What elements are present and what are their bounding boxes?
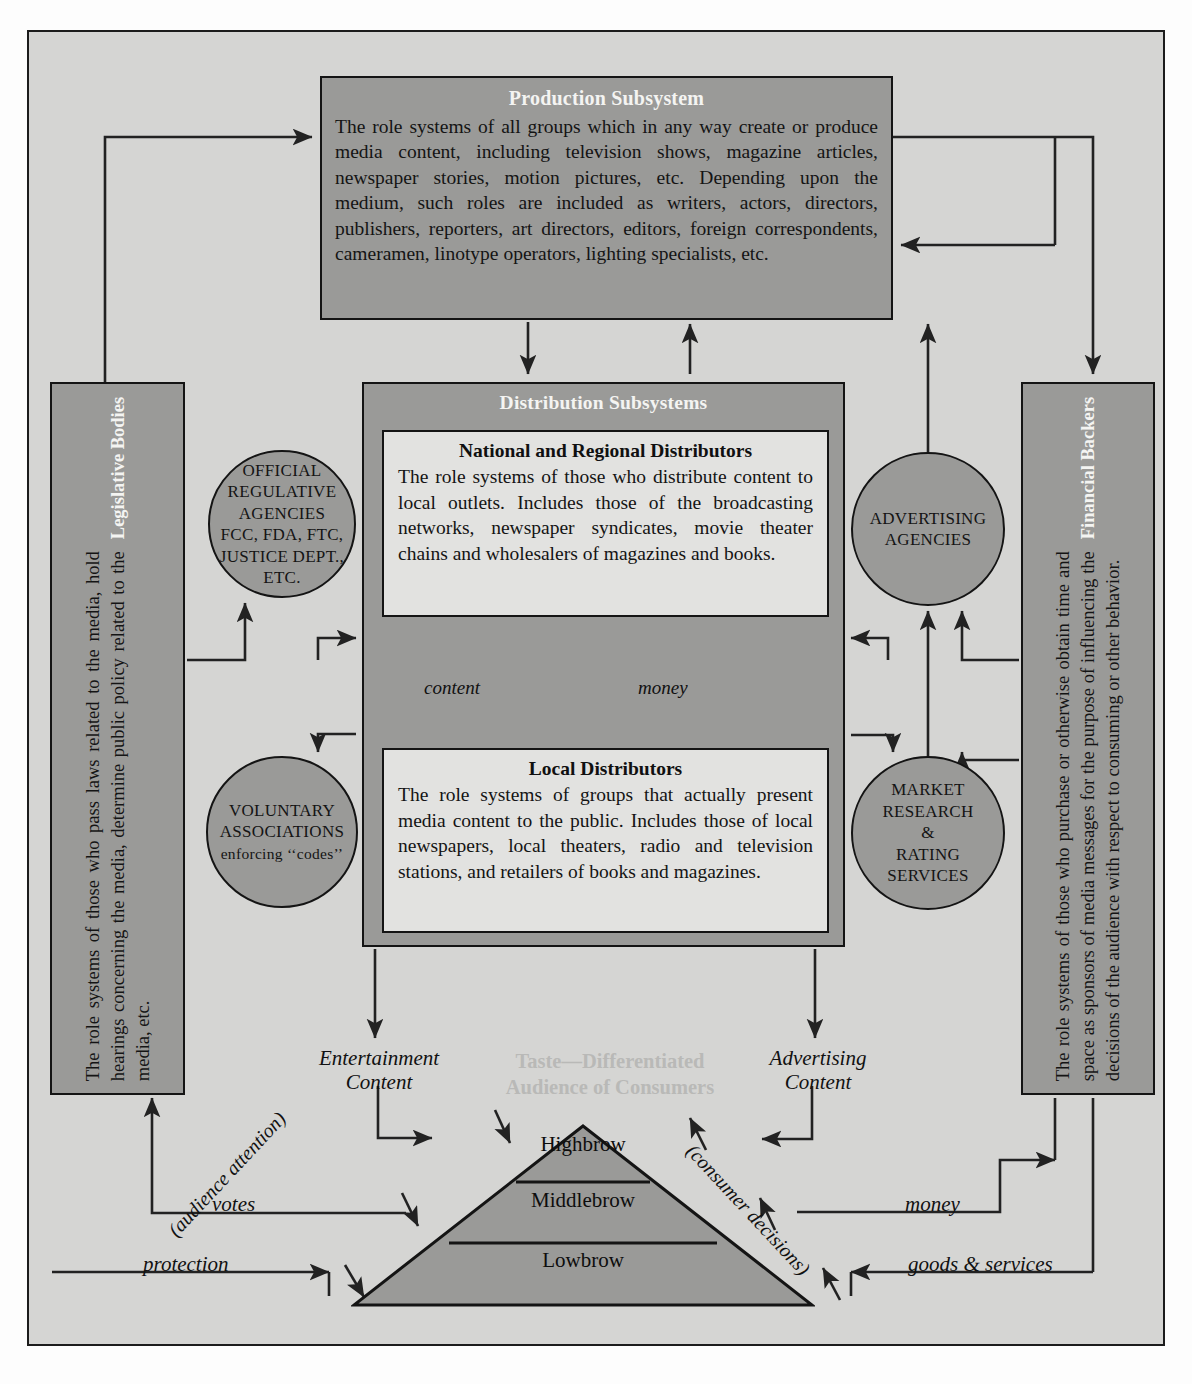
financial-backers-title: Financial Backers xyxy=(1078,396,1099,538)
production-subsystem-title: Production Subsystem xyxy=(335,87,878,110)
diagram-canvas: Production Subsystem The role systems of… xyxy=(0,0,1192,1384)
flow-label-money: money xyxy=(638,676,688,700)
votes-label: votes xyxy=(212,1192,255,1216)
official-line-6: ETC. xyxy=(220,567,344,589)
advertising-content-line-2: Content xyxy=(738,1070,898,1094)
official-line-4: FCC, FDA, FTC, xyxy=(220,524,344,546)
official-line-1: OFFICIAL xyxy=(220,460,344,482)
flow-label-content: content xyxy=(424,676,480,700)
voluntary-line-3: enforcing ‘‘codes’’ xyxy=(220,843,345,865)
market-line-4: RATING xyxy=(882,844,973,866)
entertainment-content-label: Entertainment Content xyxy=(296,1046,462,1094)
pyramid-tier-highbrow: Highbrow xyxy=(351,1132,815,1157)
production-subsystem-body: The role systems of all groups which in … xyxy=(335,114,878,266)
legislative-bodies-title: Legislative Bodies xyxy=(107,396,128,538)
distribution-subsystems-title: Distribution Subsystems xyxy=(378,392,829,414)
audience-heading: Taste—Differentiated Audience of Consume… xyxy=(495,1048,725,1100)
market-line-3: & xyxy=(882,822,973,844)
pyramid-tier-lowbrow: Lowbrow xyxy=(351,1248,815,1273)
voluntary-line-1: VOLUNTARY xyxy=(220,800,345,822)
audience-heading-line-2: Audience of Consumers xyxy=(495,1074,725,1100)
local-distributors-title: Local Distributors xyxy=(398,758,813,780)
market-line-5: SERVICES xyxy=(882,865,973,887)
legislative-bodies-body: The role systems of those who pass laws … xyxy=(80,551,155,1081)
local-distributors-body: The role systems of groups that actually… xyxy=(398,782,813,884)
local-distributors-card: Local Distributors The role systems of g… xyxy=(382,748,829,933)
financial-backers-body: The role systems of those who purchase o… xyxy=(1051,551,1126,1081)
national-regional-distributors-body: The role systems of those who distribute… xyxy=(398,464,813,566)
production-subsystem-box: Production Subsystem The role systems of… xyxy=(320,76,893,320)
advertising-content-line-1: Advertising xyxy=(738,1046,898,1070)
legislative-bodies-panel: Legislative Bodies The role systems of t… xyxy=(50,382,185,1095)
official-line-3: AGENCIES xyxy=(220,503,344,525)
market-line-1: MARKET xyxy=(882,779,973,801)
money-label: money xyxy=(905,1192,960,1216)
goods-and-services-label: goods & services xyxy=(908,1252,1053,1276)
distribution-subsystems-box: Distribution Subsystems National and Reg… xyxy=(362,382,845,947)
market-research-rating-services-circle: MARKET RESEARCH & RATING SERVICES xyxy=(851,756,1005,910)
advertising-agencies-circle: ADVERTISING AGENCIES xyxy=(851,452,1005,606)
national-regional-distributors-title: National and Regional Distributors xyxy=(398,440,813,462)
official-line-2: REGULATIVE xyxy=(220,481,344,503)
market-line-2: RESEARCH xyxy=(882,801,973,823)
audience-heading-line-1: Taste—Differentiated xyxy=(495,1048,725,1074)
official-regulative-agencies-circle: OFFICIAL REGULATIVE AGENCIES FCC, FDA, F… xyxy=(208,450,356,598)
entertainment-content-line-1: Entertainment xyxy=(296,1046,462,1070)
official-line-5: JUSTICE DEPT., xyxy=(220,546,344,568)
advertising-line-1: ADVERTISING xyxy=(870,508,987,530)
protection-label: protection xyxy=(143,1252,229,1276)
voluntary-line-2: ASSOCIATIONS xyxy=(220,821,345,843)
entertainment-content-line-2: Content xyxy=(296,1070,462,1094)
financial-backers-panel: Financial Backers The role systems of th… xyxy=(1021,382,1155,1095)
advertising-content-label: Advertising Content xyxy=(738,1046,898,1094)
voluntary-associations-circle: VOLUNTARY ASSOCIATIONS enforcing ‘‘codes… xyxy=(206,756,358,908)
advertising-line-2: AGENCIES xyxy=(870,529,987,551)
national-regional-distributors-card: National and Regional Distributors The r… xyxy=(382,430,829,617)
